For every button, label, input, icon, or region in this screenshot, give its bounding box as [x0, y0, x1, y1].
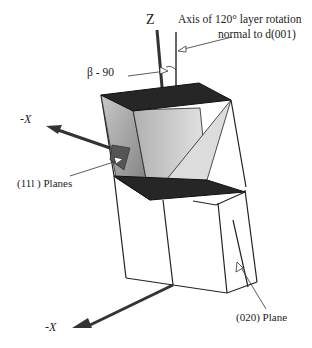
beta-label: β - 90 [87, 66, 114, 78]
z-axis-label: Z [146, 12, 155, 28]
neg-x-label-lower: -X [45, 320, 56, 335]
neg-x-axis-lower [88, 285, 173, 326]
mid-face [114, 176, 245, 200]
plane-020-label: (020) Plane [236, 311, 287, 323]
normal-label: normal to d(001) [218, 28, 296, 40]
neg-x-axis-upper [58, 130, 110, 148]
neg-x-label-upper: -X [20, 112, 31, 127]
planes-11l-label: (11l ) Planes [17, 177, 72, 189]
crystal-structure-diagram: Z Axis of 120° layer rotation normal to … [0, 0, 312, 348]
rotation-axis-label: Axis of 120° layer rotation [178, 13, 301, 25]
diagram-graphic [0, 0, 312, 348]
